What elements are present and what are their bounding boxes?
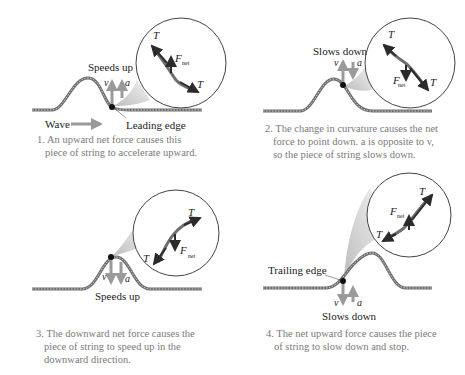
fnet-label: F <box>389 205 397 217</box>
fnet-subscript: net <box>182 60 190 66</box>
tension-label: T <box>153 29 160 41</box>
string-element-dot <box>340 278 346 284</box>
motion-label: Slows down <box>322 310 377 322</box>
panel-2: T T F net v a Slows down 2. The change i… <box>263 18 455 160</box>
string-element-dot <box>109 104 115 110</box>
wave-label: Wave <box>45 118 70 130</box>
acceleration-label: a <box>357 297 362 308</box>
acceleration-label: a <box>357 57 362 68</box>
acceleration-label: a <box>125 273 130 284</box>
tension-label: T <box>419 185 426 197</box>
fnet-label: F <box>179 244 187 256</box>
caption: 3. The downward net force causes the pie… <box>36 328 197 365</box>
magnifier-circle <box>367 173 451 257</box>
tension-label: T <box>430 76 437 88</box>
fnet-subscript: net <box>398 82 406 88</box>
panel-1: T T F net v a Speeds up Wave Leading edg… <box>32 18 226 158</box>
velocity-label: v <box>334 297 339 308</box>
fnet-subscript: net <box>397 213 405 219</box>
caption: 2. The change in curvature causes the ne… <box>265 123 441 160</box>
tension-label: T <box>388 28 395 40</box>
tension-label: T <box>188 206 195 218</box>
leading-edge-label: Leading edge <box>126 119 186 131</box>
tension-label: T <box>143 252 150 264</box>
velocity-label: v <box>102 271 107 282</box>
tension-label: T <box>376 228 383 240</box>
string-element-dot <box>108 254 114 260</box>
panel-4: T T F net v a Trailing edge Slows down 4… <box>263 173 451 352</box>
trailing-edge-label: Trailing edge <box>268 264 327 276</box>
motion-label: Speeds up <box>88 61 133 73</box>
velocity-label: v <box>334 57 339 68</box>
motion-label: Slows down <box>313 45 368 57</box>
caption: 4. The net upward force causes the piece… <box>266 328 439 352</box>
wave-on-string-figure: T T F net v a Speeds up Wave Leading edg… <box>0 0 465 375</box>
tension-label: T <box>197 78 204 90</box>
fnet-subscript: net <box>188 253 196 259</box>
panel-3: T T F net v a Speeds up 3. The downward … <box>32 190 219 365</box>
string-element-dot <box>340 82 346 88</box>
magnifier-circle <box>365 18 455 108</box>
velocity-label: v <box>104 77 109 88</box>
motion-label: Speeds up <box>95 290 140 302</box>
fnet-label: F <box>174 52 182 64</box>
acceleration-label: a <box>125 77 130 88</box>
caption: 1. An upward net force causes this piece… <box>37 134 197 158</box>
